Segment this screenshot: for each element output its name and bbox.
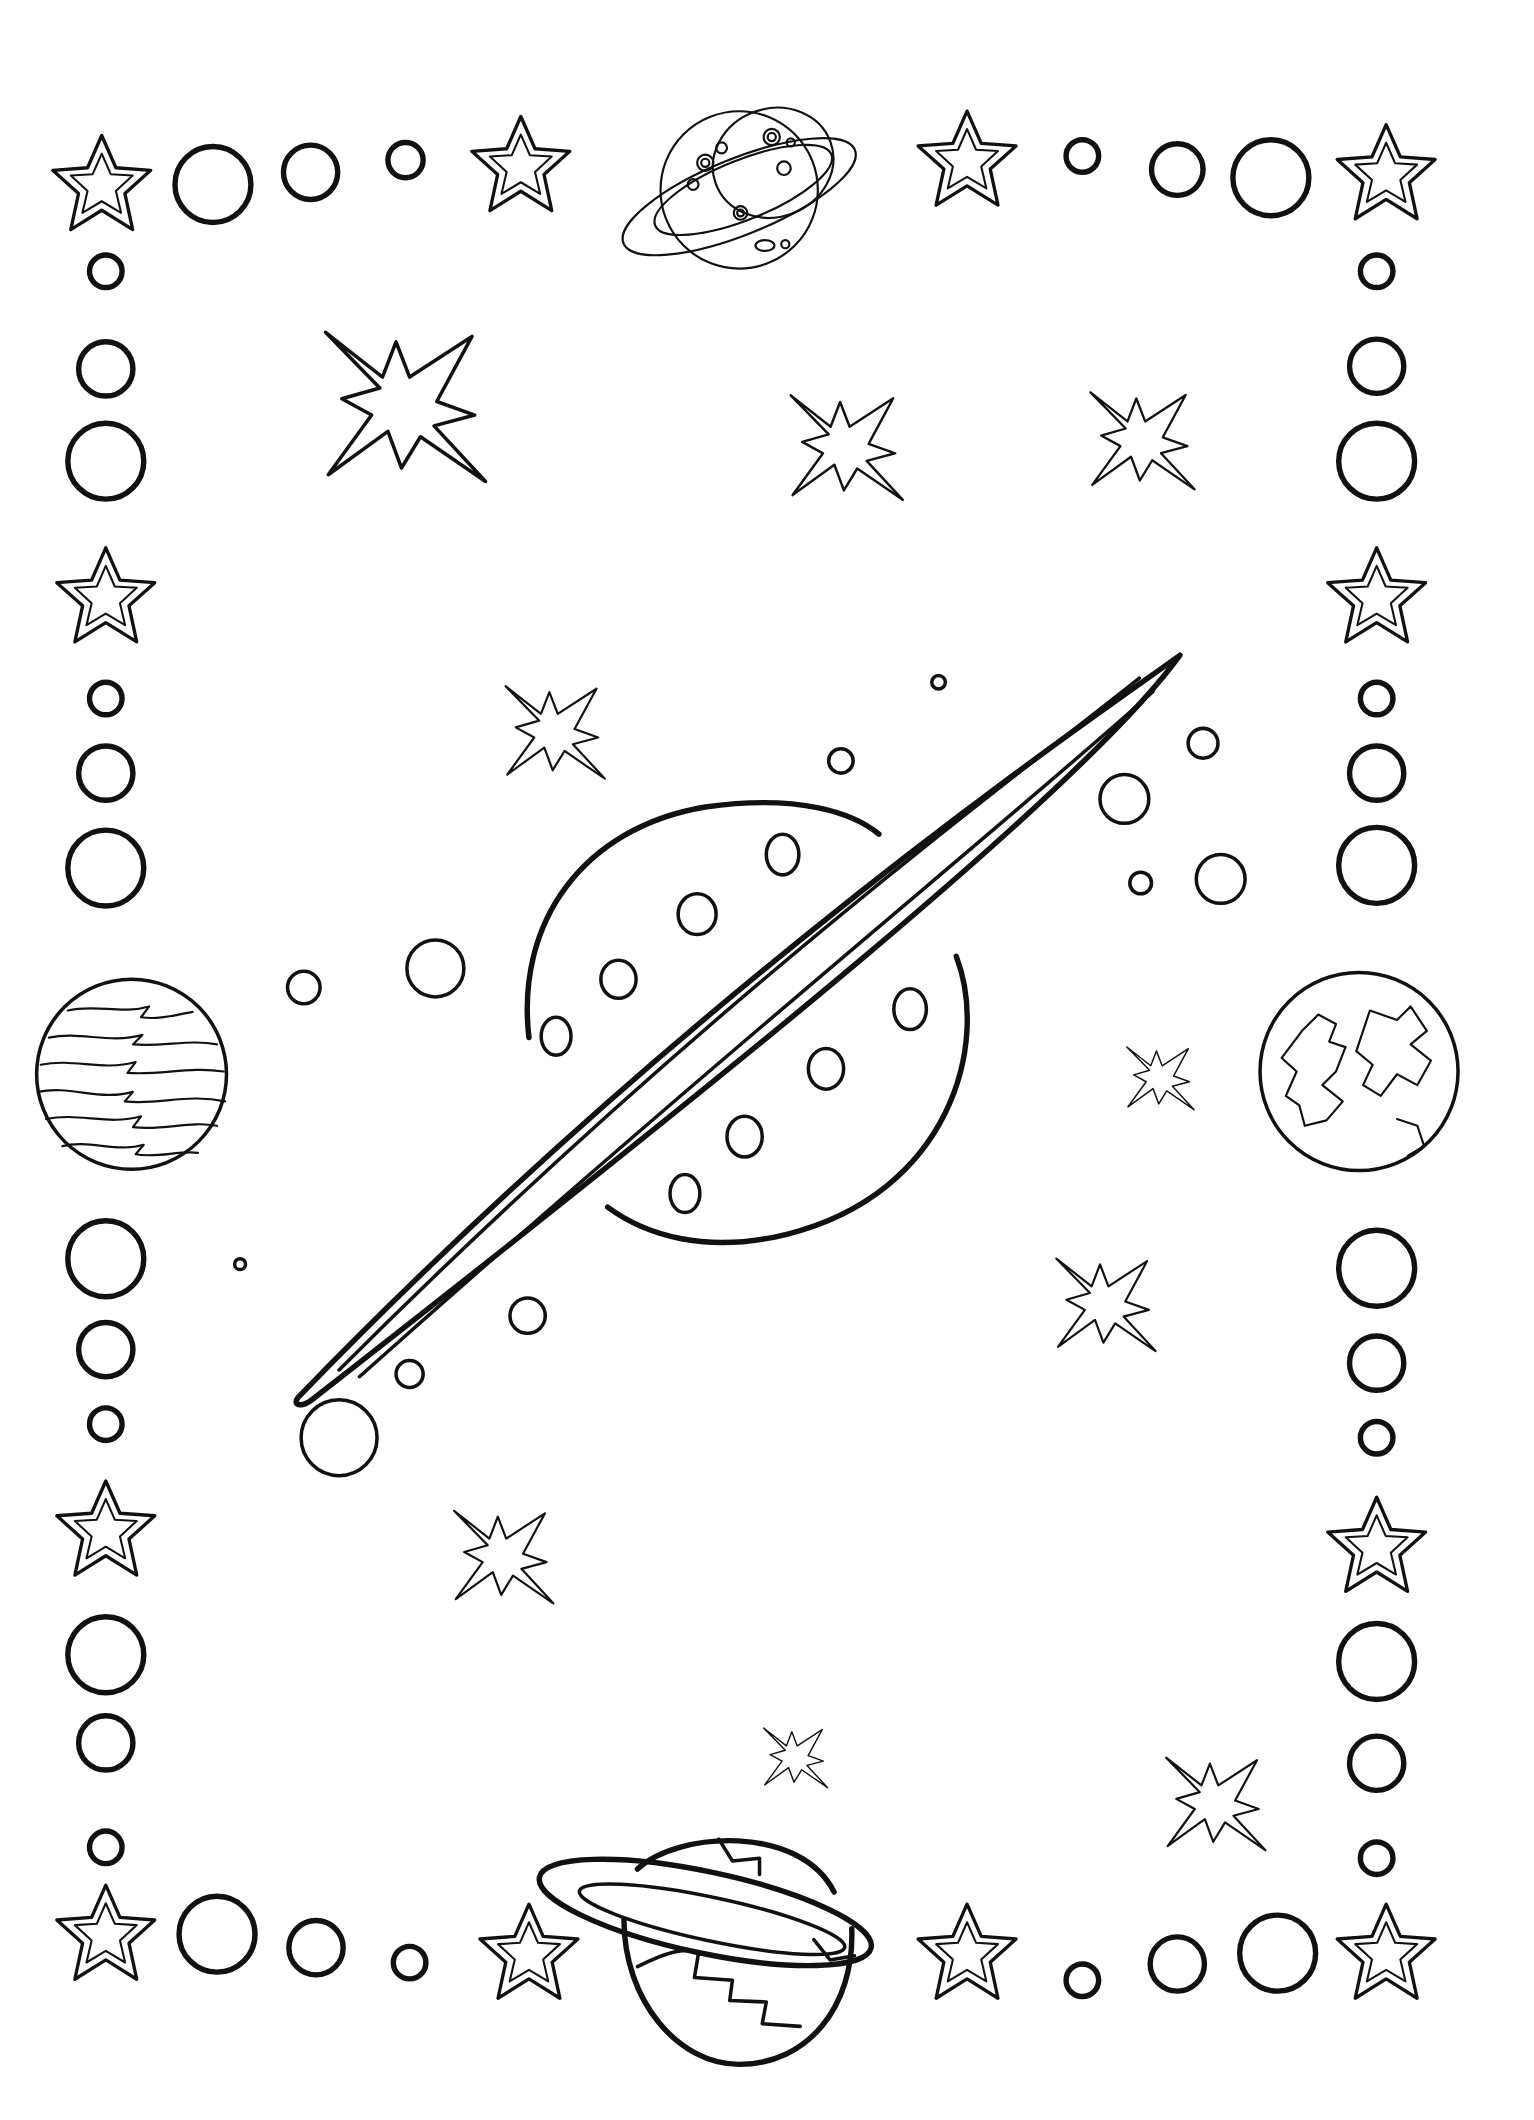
sparkle-icon [326,332,486,481]
cratered-ringed-planet [609,91,869,279]
circle-icon [175,147,251,223]
scattered-bubbles [235,675,1245,1475]
coloring-page: Space coloring page [0,0,1534,2120]
banded-planet [37,979,227,1169]
space-illustration [0,0,1534,2120]
sparkles [326,332,1266,1850]
striped-ringed-planet [531,1837,880,2064]
star-icon [53,136,151,230]
central-ringed-planet [296,655,1180,1405]
continent-planet [1260,973,1458,1171]
